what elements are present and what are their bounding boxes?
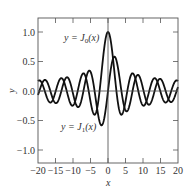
y-tick-label: −1.0 [17,145,35,156]
x-tick-label: −15 [48,165,64,176]
j0-annotation: y = J0(x) [63,32,100,45]
x-tick-label: 5 [123,165,128,176]
x-tick-label: 0 [106,165,111,176]
tick-labels: −20−15−10−5051015201.00.50.0−0.5−1.0 [17,27,183,177]
y-tick-label: 1.0 [23,27,36,38]
x-tick-label: −5 [85,165,96,176]
y-tick-label: 0.0 [23,86,36,97]
bessel-chart: −20−15−10−5051015201.00.50.0−0.5−1.0 y =… [0,0,195,193]
y-tick-label: −0.5 [17,115,35,126]
x-axis-label: x [105,177,111,188]
x-tick-label: 20 [173,165,183,176]
x-tick-label: 15 [156,165,166,176]
y-tick-label: 0.5 [23,56,36,67]
x-tick-label: 10 [138,165,148,176]
y-axis-label: y [6,88,17,94]
j1-annotation: y = J1(x) [60,121,97,134]
x-tick-label: −20 [30,165,46,176]
x-tick-label: −10 [65,165,81,176]
